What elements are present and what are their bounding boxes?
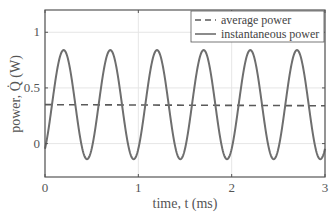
legend-average-power: average power — [221, 13, 291, 27]
average-power-line — [45, 105, 325, 106]
y-tick-label: 1 — [34, 24, 41, 39]
y-tick-label: 0 — [34, 136, 41, 151]
x-tick-label: 1 — [135, 180, 142, 195]
x-axis-label: time, t (ms) — [153, 196, 218, 212]
legend-instantaneous-power: instantaneous power — [221, 27, 319, 41]
x-tick-label: 0 — [42, 180, 49, 195]
chart: 012300.51 time, t (ms) power, Q̇ (W) ave… — [0, 0, 334, 215]
legend: average power instantaneous power — [191, 11, 324, 42]
y-tick-label: 0.5 — [24, 80, 40, 95]
x-tick-label: 3 — [322, 180, 329, 195]
x-tick-label: 2 — [228, 180, 235, 195]
plot-series — [45, 50, 325, 159]
y-axis-label: power, Q̇ (W) — [7, 55, 24, 133]
